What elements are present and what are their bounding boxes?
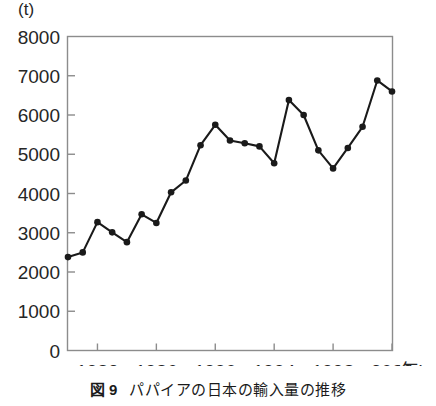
y-axis-tick-labels: 800070006000500040003000200010000 [18, 27, 60, 362]
figure-container: (t) 800070006000500040003000200010000 19… [0, 0, 436, 406]
y-tick-label: 8000 [18, 27, 60, 48]
x-tick-label: 1986 [135, 361, 177, 366]
data-point [330, 165, 337, 172]
data-point [138, 211, 145, 218]
y-tick-label: 1000 [18, 301, 60, 322]
data-line [68, 80, 392, 257]
y-tick-label: 3000 [18, 223, 60, 244]
caption-text: パパイアの日本の輸入量の推移 [129, 382, 346, 398]
data-point [359, 123, 366, 130]
y-tick-label: 5000 [18, 144, 60, 165]
data-point [65, 254, 72, 261]
data-point [79, 249, 86, 256]
data-point [345, 145, 352, 152]
data-point [256, 143, 263, 150]
data-point [212, 122, 219, 129]
data-point [183, 177, 190, 184]
x-axis-ticks [97, 344, 392, 351]
data-point [109, 229, 116, 236]
y-tick-label: 7000 [18, 66, 60, 87]
y-tick-label: 2000 [18, 262, 60, 283]
y-tick-label: 4000 [18, 184, 60, 205]
figure-caption: 図 9パパイアの日本の輸入量の推移 [0, 378, 436, 399]
x-tick-label: 1994 [253, 361, 296, 366]
data-point [300, 112, 307, 119]
data-point [286, 97, 293, 104]
data-point [94, 219, 101, 226]
x-tick-label: 1998 [312, 361, 354, 366]
data-point [271, 160, 278, 167]
y-tick-label: 6000 [18, 105, 60, 126]
data-point-markers [65, 77, 396, 260]
caption-number: 図 9 [90, 381, 118, 398]
x-tick-label: 1982 [76, 361, 118, 366]
data-point [389, 88, 396, 95]
data-point [315, 147, 322, 154]
data-point [197, 142, 204, 149]
y-axis-ticks [68, 76, 75, 312]
data-point [124, 239, 131, 246]
x-axis-tick-labels: 198219861990199419982002 [76, 361, 413, 366]
data-point [168, 189, 175, 196]
x-axis-unit-label: (年) [394, 361, 426, 366]
y-tick-label: 0 [49, 341, 60, 362]
line-chart: 800070006000500040003000200010000 198219… [0, 0, 436, 366]
x-tick-label: 1990 [194, 361, 236, 366]
data-point [241, 140, 248, 147]
data-point [227, 137, 234, 144]
plot-frame [68, 37, 393, 351]
plot-area: 800070006000500040003000200010000 198219… [0, 0, 436, 366]
data-point [374, 77, 381, 84]
data-point [153, 220, 160, 227]
